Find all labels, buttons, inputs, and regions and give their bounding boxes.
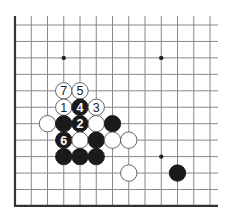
move-number: 4 — [77, 101, 84, 115]
stone-disc — [169, 165, 185, 181]
white-stone: 5 — [72, 83, 88, 99]
black-stone — [56, 148, 72, 164]
stone-disc — [121, 132, 137, 148]
move-number: 6 — [60, 134, 67, 148]
black-stone — [88, 132, 104, 148]
white-stone — [88, 116, 104, 132]
black-stone — [88, 148, 104, 164]
move-number: 7 — [60, 84, 67, 98]
stone-disc — [88, 116, 104, 132]
move-number: 3 — [93, 101, 100, 115]
white-stone — [121, 132, 137, 148]
stone-disc — [121, 165, 137, 181]
white-stone — [104, 132, 120, 148]
go-board-diagram: 7514326 — [0, 0, 234, 217]
board-svg: 7514326 — [0, 0, 234, 217]
white-stone: 1 — [56, 99, 72, 115]
stone-disc — [104, 132, 120, 148]
black-stone — [169, 165, 185, 181]
black-stone — [56, 116, 72, 132]
move-number: 1 — [60, 101, 67, 115]
white-stone: 3 — [88, 99, 104, 115]
stone-disc — [104, 116, 120, 132]
stone-disc — [56, 116, 72, 132]
black-stone: 4 — [72, 99, 88, 115]
grid-lines — [14, 16, 218, 207]
stone-disc — [39, 116, 55, 132]
star-point — [62, 56, 66, 60]
star-point — [159, 154, 163, 158]
black-stone: 6 — [56, 132, 72, 148]
stone-disc — [88, 132, 104, 148]
white-stone — [39, 116, 55, 132]
black-stone — [72, 148, 88, 164]
white-stone — [121, 165, 137, 181]
stone-disc — [88, 148, 104, 164]
stone-disc — [72, 148, 88, 164]
move-number: 5 — [77, 84, 84, 98]
white-stone: 7 — [56, 83, 72, 99]
stone-disc — [72, 132, 88, 148]
star-point — [159, 56, 163, 60]
black-stone — [104, 116, 120, 132]
white-stone — [72, 132, 88, 148]
stone-disc — [56, 148, 72, 164]
black-stone: 2 — [72, 116, 88, 132]
move-number: 2 — [77, 117, 84, 131]
